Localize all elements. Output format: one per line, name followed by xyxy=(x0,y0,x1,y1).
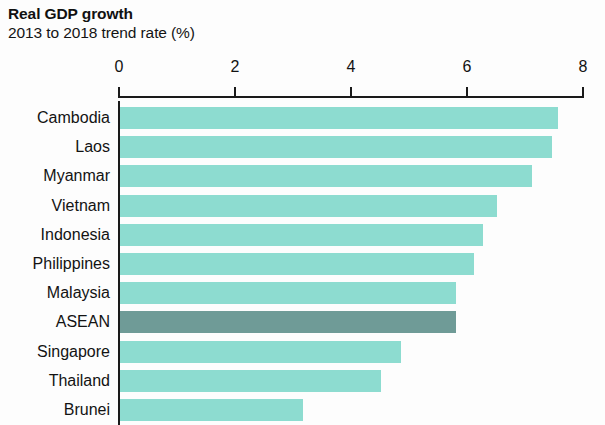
chart-row: Malaysia xyxy=(0,282,605,304)
chart-row: Cambodia xyxy=(0,107,605,129)
bar-thailand xyxy=(120,370,381,392)
category-label: Indonesia xyxy=(0,224,110,246)
category-label: ASEAN xyxy=(0,311,110,333)
x-axis: 02468 xyxy=(0,58,605,103)
category-label: Thailand xyxy=(0,370,110,392)
bar-brunei xyxy=(120,399,303,421)
x-axis-tick-label: 2 xyxy=(231,58,240,76)
chart-row: Philippines xyxy=(0,253,605,275)
category-label: Cambodia xyxy=(0,107,110,129)
chart-row: Indonesia xyxy=(0,224,605,246)
category-label: Brunei xyxy=(0,399,110,421)
chart-subtitle: 2013 to 2018 trend rate (%) xyxy=(8,23,528,43)
category-label: Vietnam xyxy=(0,195,110,217)
chart-row: Laos xyxy=(0,136,605,158)
x-axis-tick-label: 8 xyxy=(579,58,588,76)
x-axis-tick-mark xyxy=(350,87,352,98)
x-axis-tick-label: 0 xyxy=(115,58,124,76)
bar-philippines xyxy=(120,253,474,275)
bar-asean xyxy=(120,311,456,333)
chart-row: ASEAN xyxy=(0,311,605,333)
bar-singapore xyxy=(120,341,401,363)
chart-row: Brunei xyxy=(0,399,605,421)
chart-row: Vietnam xyxy=(0,195,605,217)
x-axis-tick-mark xyxy=(582,87,584,98)
gdp-growth-bar-chart: Real GDP growth 2013 to 2018 trend rate … xyxy=(0,0,605,425)
bar-vietnam xyxy=(120,195,497,217)
bar-laos xyxy=(120,136,552,158)
x-axis-tick-mark xyxy=(118,87,120,98)
category-label: Malaysia xyxy=(0,282,110,304)
x-axis-tick-mark xyxy=(234,87,236,98)
bar-myanmar xyxy=(120,165,532,187)
bar-malaysia xyxy=(120,282,456,304)
category-label: Philippines xyxy=(0,253,110,275)
category-label: Singapore xyxy=(0,341,110,363)
chart-row: Myanmar xyxy=(0,165,605,187)
plot-area: CambodiaLaosMyanmarVietnamIndonesiaPhili… xyxy=(0,101,605,425)
x-axis-tick-label: 6 xyxy=(463,58,472,76)
x-axis-tick-mark xyxy=(466,87,468,98)
chart-row: Thailand xyxy=(0,370,605,392)
chart-title: Real GDP growth xyxy=(8,4,528,23)
category-label: Myanmar xyxy=(0,165,110,187)
category-label: Laos xyxy=(0,136,110,158)
chart-row: Singapore xyxy=(0,341,605,363)
chart-header: Real GDP growth 2013 to 2018 trend rate … xyxy=(8,4,528,43)
bar-indonesia xyxy=(120,224,483,246)
x-axis-tick-label: 4 xyxy=(347,58,356,76)
bar-cambodia xyxy=(120,107,558,129)
